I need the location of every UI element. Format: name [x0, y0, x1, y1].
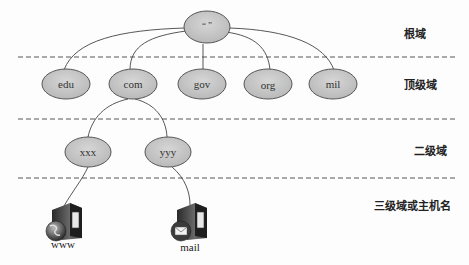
root-node-label: “ ” [202, 20, 212, 30]
web-server-globe-icon [46, 203, 82, 241]
sld-label-xxx: xxx [80, 146, 97, 158]
host-label-mail: mail [180, 241, 200, 253]
edges-sld-to-host [64, 167, 190, 206]
diagram-graphics [0, 0, 469, 265]
level-label-root: 根域 [404, 25, 426, 41]
tld-label-org: org [261, 79, 275, 91]
level-label-host: 三级域或主机名 [374, 197, 451, 213]
tld-label-mil: mil [326, 78, 341, 90]
tld-label-gov: gov [194, 78, 211, 90]
sld-label-yyy: yyy [160, 146, 177, 158]
tld-label-com: com [124, 78, 143, 90]
edges-com-to-sld [88, 99, 167, 137]
level-label-sld: 二级域 [414, 142, 447, 158]
host-label-www: www [51, 238, 75, 250]
level-label-tld: 顶级域 [404, 76, 437, 92]
mail-server-envelope-icon [171, 203, 207, 241]
tld-label-edu: edu [58, 78, 74, 90]
dns-diagram: “ ” edu com gov org mil xxx yyy www mail… [0, 0, 469, 265]
